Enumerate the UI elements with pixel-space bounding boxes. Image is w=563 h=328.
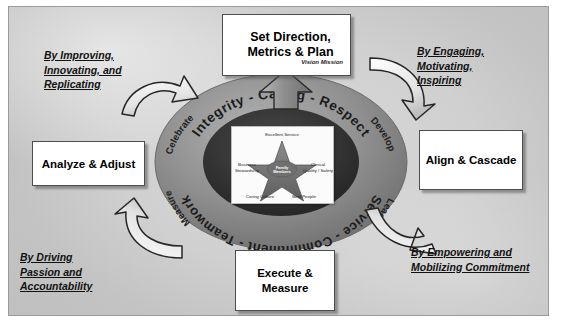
star-label-best-people: Best People xyxy=(292,194,316,199)
star-label-caring-culture: Caring Culture xyxy=(246,194,275,199)
caption-bottom-left: By Driving Passion and Accountability xyxy=(20,250,92,294)
box-execute-measure-label: Execute & Measure xyxy=(236,266,334,296)
star-label-stewardship: Stewardship xyxy=(235,168,260,173)
caption-top-left-line3: Replicating xyxy=(44,77,122,92)
star-panel: Family Members Excellent Service Busines… xyxy=(231,126,334,204)
caption-top-right-line1: By Engaging, xyxy=(417,44,484,59)
caption-bottom-left-line1: By Driving xyxy=(20,250,92,265)
star-center-line2: Members xyxy=(273,169,291,174)
vision-label: Vision xyxy=(301,59,319,65)
caption-bottom-right-line1: By Empowering and xyxy=(411,245,529,260)
caption-top-right-line2: Motivating, xyxy=(417,59,484,74)
star-label-clinical: Clinical xyxy=(311,162,325,167)
box-analyze-adjust-label: Analyze & Adjust xyxy=(42,158,136,170)
star-label-quality-safety: Quality / Safety xyxy=(303,168,333,173)
caption-bottom-left-line3: Accountability xyxy=(20,279,92,294)
star-graphic: Family Members Excellent Service Busines… xyxy=(232,127,333,203)
vision-mission-note: Vision Mission xyxy=(301,59,343,67)
caption-top-right-line3: Inspiring xyxy=(417,73,484,88)
caption-top-left-line2: Innovating, and xyxy=(44,63,122,78)
caption-bottom-left-line2: Passion and xyxy=(20,265,92,280)
box-align-cascade[interactable]: Align & Cascade xyxy=(419,130,523,190)
caption-top-left-line1: By Improving, xyxy=(44,48,122,63)
star-label-business: Business xyxy=(238,162,257,167)
caption-bottom-right: By Empowering and Mobilizing Commitment xyxy=(411,245,529,274)
arrow-bottom-left-icon xyxy=(112,196,196,264)
caption-bottom-right-line2: Mobilizing Commitment xyxy=(411,260,529,275)
box-analyze-adjust[interactable]: Analyze & Adjust xyxy=(32,141,145,186)
mission-label: Mission xyxy=(321,59,343,65)
slide-canvas: Integrity - Caring - Respect Service - C… xyxy=(0,0,563,328)
box-execute-measure[interactable]: Execute & Measure xyxy=(235,250,335,311)
caption-top-right: By Engaging, Motivating, Inspiring xyxy=(417,44,484,88)
box-align-cascade-label: Align & Cascade xyxy=(426,153,517,168)
star-label-excellent-service: Excellent Service xyxy=(265,132,299,137)
arrow-top-left-icon xyxy=(118,70,202,130)
box-set-direction-label: Set Direction, Metrics & Plan xyxy=(231,30,350,60)
caption-top-left: By Improving, Innovating, and Replicatin… xyxy=(44,48,122,92)
box-set-direction[interactable]: Set Direction, Metrics & Plan Vision Mis… xyxy=(222,14,351,76)
